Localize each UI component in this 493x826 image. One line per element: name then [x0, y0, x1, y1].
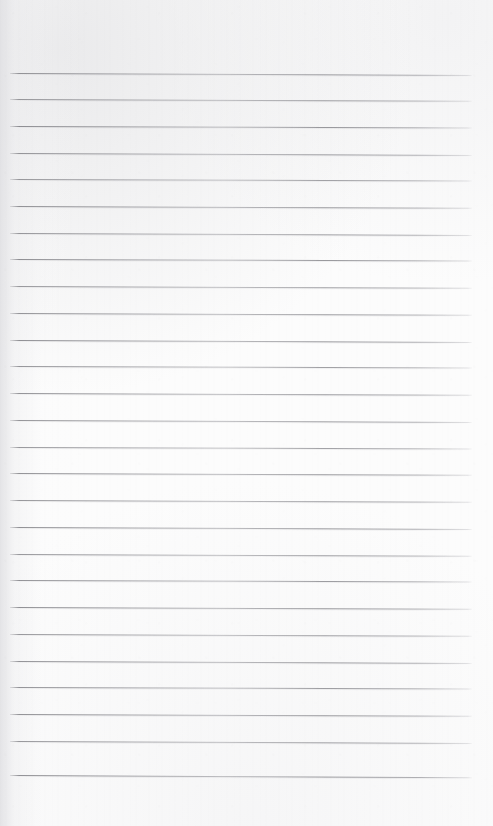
paper-background: [0, 0, 493, 826]
scanned-page: [0, 0, 493, 826]
